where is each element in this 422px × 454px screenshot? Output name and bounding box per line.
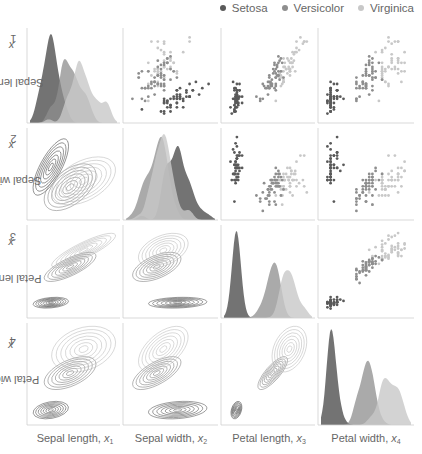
contour-virginica (279, 337, 300, 361)
point-virginica (381, 179, 384, 182)
point-versicolor (282, 76, 285, 79)
point-versicolor (355, 275, 358, 278)
point-setosa (163, 97, 166, 100)
point-virginica (390, 248, 393, 251)
point-setosa (339, 170, 342, 173)
point-versicolor (361, 83, 364, 86)
point-setosa (232, 81, 235, 84)
contour-setosa (235, 409, 237, 412)
point-setosa (238, 89, 241, 92)
point-versicolor (255, 95, 258, 98)
contour-setosa (169, 301, 186, 305)
point-virginica (381, 182, 384, 185)
point-versicolor (355, 268, 358, 271)
contour-virginica (144, 331, 182, 367)
point-versicolor (371, 194, 374, 197)
point-versicolor (371, 257, 374, 260)
point-versicolor (374, 262, 377, 265)
point-virginica (381, 61, 384, 64)
point-virginica (387, 154, 390, 157)
point-versicolor (277, 170, 280, 173)
point-virginica (390, 170, 393, 173)
point-versicolor (371, 61, 374, 64)
point-versicolor (371, 176, 374, 179)
point-virginica (294, 170, 297, 173)
pairplot-grid (0, 0, 422, 454)
contour-virginica (276, 333, 304, 365)
point-virginica (290, 57, 293, 60)
point-versicolor (264, 87, 267, 90)
point-virginica (291, 194, 294, 197)
panel-sepal-width-vs-sepal-length (26, 128, 123, 220)
point-virginica (390, 53, 393, 56)
contour-setosa (34, 400, 67, 419)
point-setosa (329, 81, 332, 84)
point-versicolor (150, 81, 153, 84)
point-versicolor (361, 185, 364, 188)
point-versicolor (365, 265, 368, 268)
point-versicolor (365, 185, 368, 188)
point-setosa (229, 106, 232, 109)
point-virginica (289, 74, 292, 77)
point-virginica (400, 248, 403, 251)
point-virginica (400, 176, 403, 179)
point-versicolor (274, 182, 277, 185)
point-versicolor (381, 173, 384, 176)
panel-sepal-length-vs-sepal-length (27, 28, 120, 123)
contour-setosa (38, 298, 64, 308)
contour-versicolor (129, 246, 186, 287)
point-virginica (400, 255, 403, 258)
contour-setosa (173, 302, 181, 304)
point-virginica (274, 100, 277, 103)
point-virginica (374, 51, 377, 54)
point-versicolor (261, 97, 264, 100)
point-versicolor (355, 200, 358, 203)
point-virginica (378, 262, 381, 265)
point-setosa (166, 106, 169, 109)
point-versicolor (271, 179, 274, 182)
point-virginica (394, 185, 397, 188)
point-virginica (299, 36, 302, 39)
contour-virginica (138, 230, 189, 271)
point-versicolor (277, 182, 280, 185)
point-setosa (329, 176, 332, 179)
point-virginica (374, 246, 377, 249)
point-setosa (333, 102, 336, 105)
point-virginica (368, 191, 371, 194)
point-virginica (172, 61, 175, 64)
point-versicolor (365, 182, 368, 185)
point-virginica (286, 72, 289, 75)
point-versicolor (274, 203, 277, 206)
point-versicolor (280, 176, 283, 179)
point-versicolor (371, 182, 374, 185)
point-virginica (163, 40, 166, 43)
contour-versicolor (132, 353, 182, 392)
contour-setosa (35, 297, 66, 308)
point-virginica (381, 51, 384, 54)
point-virginica (403, 247, 406, 250)
point-setosa (236, 91, 239, 94)
point-versicolor (169, 68, 172, 71)
point-versicolor (273, 64, 276, 67)
point-setosa (333, 302, 336, 305)
point-versicolor (371, 70, 374, 73)
point-virginica (299, 154, 302, 157)
point-setosa (234, 170, 237, 173)
point-setosa (336, 136, 339, 139)
point-setosa (234, 97, 237, 100)
point-virginica (303, 40, 306, 43)
point-versicolor (278, 185, 281, 188)
point-versicolor (355, 76, 358, 79)
point-versicolor (255, 194, 258, 197)
point-versicolor (368, 55, 371, 58)
point-virginica (397, 173, 400, 176)
point-versicolor (365, 274, 368, 277)
panel-petal-width-vs-petal-length (221, 321, 315, 425)
point-setosa (182, 100, 185, 103)
point-setosa (329, 106, 332, 109)
point-versicolor (281, 179, 284, 182)
point-setosa (342, 300, 345, 303)
point-virginica (384, 242, 387, 245)
point-virginica (403, 160, 406, 163)
point-versicolor (368, 261, 371, 264)
